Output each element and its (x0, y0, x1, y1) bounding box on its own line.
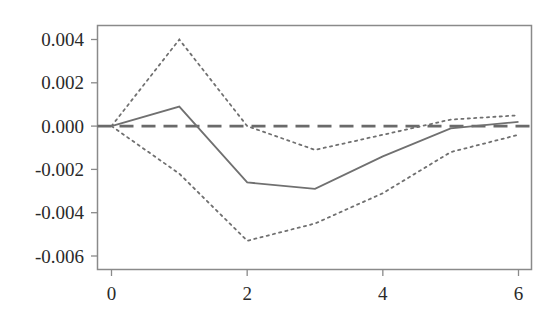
x-tick-label: 0 (107, 283, 117, 304)
y-tick-label: 0.004 (41, 29, 84, 50)
y-axis: 0.0040.0020.000-0.002-0.004-0.006 (35, 29, 98, 267)
impulse-response-chart: 0.0040.0020.000-0.002-0.004-0.006 0246 (0, 0, 560, 321)
y-tick-label: -0.002 (35, 159, 84, 180)
y-tick-label: -0.006 (35, 246, 84, 267)
y-tick-label: -0.004 (35, 202, 85, 223)
y-tick-label: 0.000 (41, 116, 84, 137)
x-axis: 0246 (107, 270, 524, 305)
series-lines (112, 40, 519, 241)
y-tick-label: 0.002 (41, 72, 84, 93)
upper-band-line (112, 40, 519, 150)
lower-band-line (112, 126, 519, 241)
x-tick-label: 2 (242, 283, 252, 304)
x-tick-label: 6 (514, 283, 524, 304)
x-tick-label: 4 (378, 283, 388, 304)
